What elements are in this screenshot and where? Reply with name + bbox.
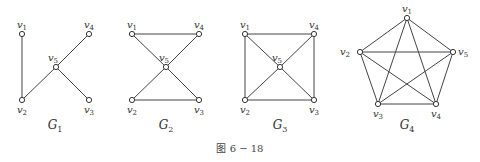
figure-caption: 图 6 − 18 <box>216 143 263 154</box>
vertex-v3 <box>86 97 91 102</box>
vertex-label-v3: v3 <box>194 104 204 117</box>
vertex-label-v3: v3 <box>84 104 94 117</box>
edge-v5-v2 <box>132 67 166 100</box>
edge-v2-v3 <box>360 52 378 104</box>
edge-v2-v4 <box>360 52 436 104</box>
vertex-v4 <box>433 101 438 106</box>
edge-v1-v4 <box>407 18 436 104</box>
vertex-label-v5: v5 <box>458 46 468 59</box>
edge-v5-v3 <box>280 67 314 100</box>
edge-v4-v5 <box>166 34 199 67</box>
edge-v1-v3 <box>378 18 407 104</box>
vertex-v4 <box>311 31 316 36</box>
vertex-label-v4: v4 <box>84 19 95 32</box>
vertex-v2 <box>242 97 247 102</box>
vertex-label-v3: v3 <box>309 104 319 117</box>
graph-g2: v1v2v3v4v5G2 <box>127 19 205 134</box>
vertex-v5 <box>450 49 455 54</box>
vertex-v4 <box>196 31 201 36</box>
vertex-v1 <box>19 31 24 36</box>
edge-v5-v2 <box>245 67 280 100</box>
edge-v5-v4 <box>56 34 89 67</box>
graph-figure: v1v2v3v4v5G1v1v2v3v4v5G2v1v2v3v4v5G3v1v2… <box>0 0 480 162</box>
edge-v5-v3 <box>56 67 89 100</box>
vertex-label-v2: v2 <box>17 104 27 117</box>
vertex-v1 <box>129 31 134 36</box>
vertex-v2 <box>19 97 24 102</box>
vertex-v4 <box>86 31 91 36</box>
vertex-v1 <box>404 15 409 20</box>
vertex-v5 <box>53 64 58 69</box>
vertex-label-v1: v1 <box>127 19 137 32</box>
vertex-label-v2: v2 <box>240 104 250 117</box>
graph-title-g2: G2 <box>159 118 174 134</box>
vertex-label-v3: v3 <box>373 108 383 121</box>
vertex-label-v1: v1 <box>402 3 412 16</box>
edge-v3-v5 <box>378 52 453 104</box>
vertex-label-v4: v4 <box>309 19 320 32</box>
graph-g4: v1v2v3v4v5G4 <box>340 3 468 134</box>
vertex-v2 <box>129 97 134 102</box>
vertex-v5 <box>277 64 282 69</box>
vertex-label-v5: v5 <box>48 52 58 65</box>
edge-v1-v2 <box>360 18 407 52</box>
graph-g3: v1v2v3v4v5G3 <box>240 19 320 134</box>
vertex-v5 <box>163 64 168 69</box>
edge-v1-v5 <box>407 18 453 52</box>
vertex-v1 <box>242 31 247 36</box>
graph-title-g1: G1 <box>48 118 63 134</box>
vertex-v3 <box>375 101 380 106</box>
vertex-label-v2: v2 <box>127 104 137 117</box>
vertex-label-v2: v2 <box>340 46 350 59</box>
edge-v5-v3 <box>166 67 199 100</box>
vertex-v3 <box>311 97 316 102</box>
vertex-label-v1: v1 <box>17 19 27 32</box>
edge-v2-v5 <box>22 67 56 100</box>
vertex-label-v5: v5 <box>159 52 169 65</box>
edge-v4-v5 <box>280 34 314 67</box>
vertex-label-v5: v5 <box>272 52 282 65</box>
vertex-label-v1: v1 <box>240 19 250 32</box>
graph-g1: v1v2v3v4v5G1 <box>17 19 95 134</box>
vertex-label-v4: v4 <box>194 19 205 32</box>
vertex-v2 <box>357 49 362 54</box>
edge-v4-v5 <box>436 52 453 104</box>
graph-title-g4: G4 <box>400 118 415 134</box>
vertex-label-v4: v4 <box>431 108 442 121</box>
vertex-v3 <box>196 97 201 102</box>
graph-title-g3: G3 <box>273 118 288 134</box>
